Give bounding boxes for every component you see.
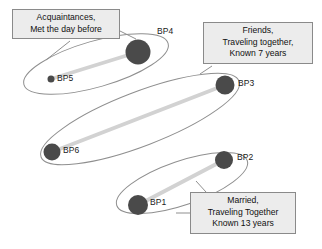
node-label-bp3: BP3 (238, 78, 254, 88)
node-label-bp4: BP4 (157, 26, 173, 36)
callout-friends: Friends, Traveling together, Known 7 yea… (203, 22, 313, 64)
callout-married-line-3: Known 13 years (196, 218, 290, 230)
node-bp1[interactable] (128, 195, 148, 215)
node-bp3[interactable] (216, 76, 235, 95)
nodes (44, 40, 235, 216)
callout-married: Married, Traveling Together Known 13 yea… (190, 192, 296, 234)
callout-married-line-2: Traveling Together (196, 207, 290, 219)
callout-friends-line-1: Friends, (209, 25, 307, 37)
callout-friends-line-3: Known 7 years (209, 48, 307, 60)
leader-line-acquaintances (46, 41, 70, 60)
node-bp4[interactable] (126, 40, 151, 65)
callout-acquaintances-line-1: Acquaintances, (18, 12, 114, 24)
node-label-bp5: BP5 (57, 73, 73, 83)
callout-married-line-1: Married, (196, 195, 290, 207)
node-bp2[interactable] (215, 151, 233, 169)
node-label-bp1: BP1 (150, 197, 166, 207)
callout-acquaintances-line-2: Met the day before (18, 24, 114, 36)
leader-line-friends (200, 66, 212, 74)
node-label-bp2: BP2 (237, 152, 253, 162)
callout-friends-line-2: Traveling together, (209, 37, 307, 49)
relationship-diagram: BP4 BP5 BP3 BP6 BP2 BP1 Acquaintances, M… (0, 0, 322, 249)
node-label-bp6: BP6 (63, 145, 79, 155)
leader-line-married (196, 181, 206, 192)
callout-acquaintances: Acquaintances, Met the day before (12, 9, 120, 39)
node-bp5[interactable] (48, 76, 55, 83)
node-bp6[interactable] (44, 144, 61, 161)
